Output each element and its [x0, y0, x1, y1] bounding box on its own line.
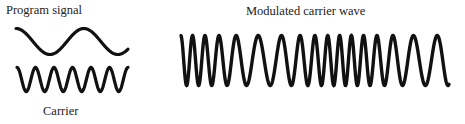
- modulated-carrier-wave: [181, 36, 449, 86]
- carrier-wave: [17, 68, 128, 92]
- waves-diagram: [0, 0, 465, 124]
- program-signal-wave: [16, 29, 128, 55]
